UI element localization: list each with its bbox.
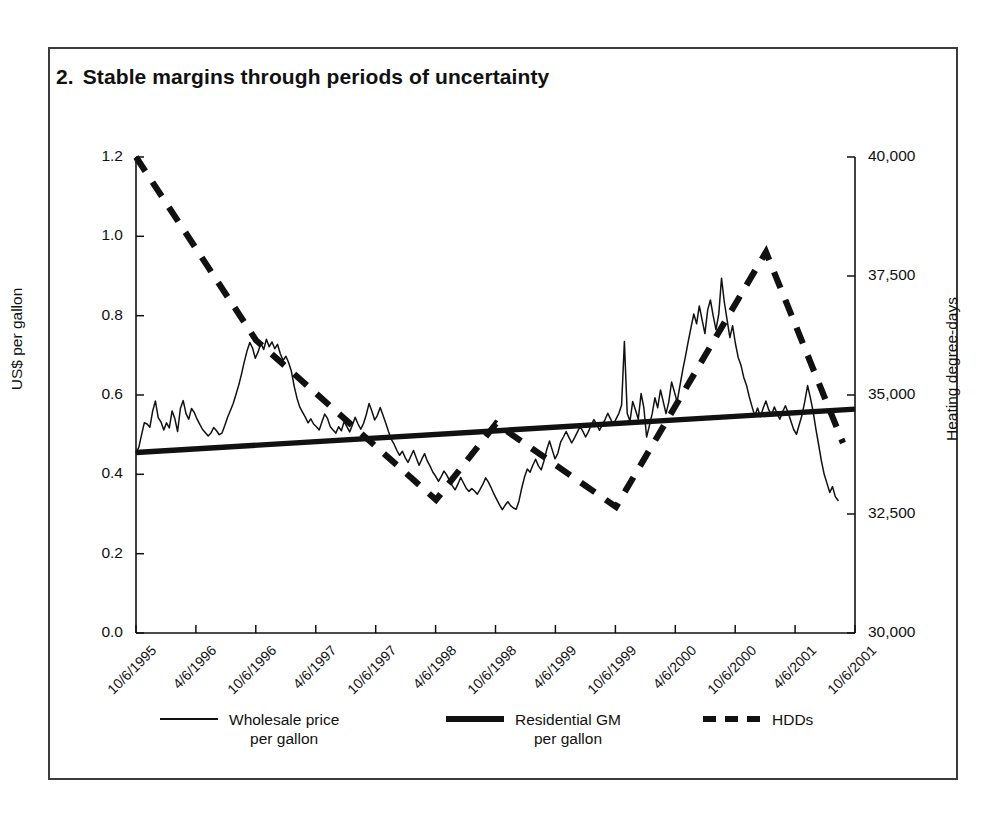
right-tick-marks bbox=[847, 157, 855, 633]
right-tick-label-35000: 35,000 bbox=[868, 385, 915, 403]
right-tick-label-37500: 37,500 bbox=[868, 266, 915, 284]
legend-item-residential-gm[interactable]: Residential GM per gallon bbox=[446, 710, 621, 748]
legend-label-line1: Residential GM bbox=[515, 711, 621, 728]
series-hdds bbox=[136, 157, 843, 507]
legend-label-residential-gm: Residential GM per gallon bbox=[515, 710, 621, 748]
dashed-line-swatch-icon bbox=[703, 710, 761, 728]
legend-item-hdds[interactable]: HDDs bbox=[703, 710, 813, 729]
legend-label-line2: per gallon bbox=[229, 729, 339, 748]
chart-legend: Wholesale price per gallon Residential G… bbox=[48, 700, 958, 770]
left-tick-label-0-2: 0.2 bbox=[78, 544, 123, 562]
thick-line-swatch-icon bbox=[446, 710, 504, 728]
bottom-tick-marks bbox=[136, 625, 855, 633]
right-tick-label-32500: 32,500 bbox=[868, 504, 915, 522]
legend-label-line2: per gallon bbox=[515, 729, 621, 748]
left-axis-title: US$ per gallon bbox=[8, 288, 26, 391]
legend-item-wholesale-price[interactable]: Wholesale price per gallon bbox=[160, 710, 339, 748]
left-tick-label-1-0: 1.0 bbox=[78, 226, 123, 244]
left-tick-label-1-2: 1.2 bbox=[78, 147, 123, 165]
left-tick-label-0-4: 0.4 bbox=[78, 464, 123, 482]
figure-container: 2.Stable margins through periods of unce… bbox=[0, 0, 1007, 828]
left-tick-label-0-8: 0.8 bbox=[78, 306, 123, 324]
right-axis-title: Heating degree-days bbox=[943, 297, 961, 441]
right-tick-label-30000: 30,000 bbox=[868, 623, 915, 641]
legend-label-wholesale-price: Wholesale price per gallon bbox=[229, 710, 339, 748]
legend-label-hdds: HDDs bbox=[772, 710, 813, 729]
left-tick-label-0-6: 0.6 bbox=[78, 385, 123, 403]
thin-line-swatch-icon bbox=[160, 710, 218, 728]
left-tick-marks bbox=[136, 157, 144, 633]
series-residential-gm bbox=[136, 409, 855, 452]
right-tick-label-40000: 40,000 bbox=[868, 147, 915, 165]
legend-label-line1: HDDs bbox=[772, 711, 813, 728]
left-tick-label-0-0: 0.0 bbox=[78, 623, 123, 641]
legend-label-line1: Wholesale price bbox=[229, 711, 339, 728]
